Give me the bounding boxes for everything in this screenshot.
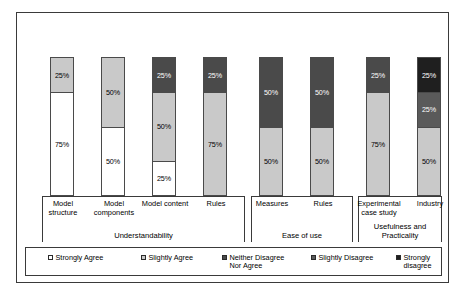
category-label: Rules	[293, 200, 353, 209]
stacked-bar: 50%50%	[310, 57, 334, 196]
legend-swatch-icon	[222, 255, 227, 260]
stacked-bar: 25%25%50%	[417, 57, 441, 196]
legend-label: Neither Disagree Nor Agree	[230, 254, 285, 271]
bar-segment: 25%	[153, 58, 175, 92]
bar-segment-label: 25%	[422, 72, 436, 79]
bar-segment: 50%	[260, 58, 282, 127]
stacked-bar: 25%50%25%	[152, 57, 176, 196]
category-label-line2: case study	[349, 209, 409, 218]
bar-segment: 50%	[260, 127, 282, 196]
bar-segment-label: 75%	[55, 141, 69, 148]
bar-segment-label: 25%	[157, 175, 171, 182]
bar-segment-label: 25%	[157, 72, 171, 79]
bar-segment: 50%	[102, 58, 124, 127]
legend-swatch-icon	[311, 255, 316, 260]
bar-segment: 50%	[311, 58, 333, 127]
legend-item[interactable]: Neither Disagree Nor Agree	[222, 254, 284, 271]
chart-frame: 25%75%50%50%25%50%25%25%75%50%50%50%50%2…	[16, 12, 449, 283]
bar-segment-label: 50%	[106, 158, 120, 165]
bar-segment: 25%	[204, 58, 226, 92]
bar-segment: 25%	[51, 58, 73, 92]
axis-group-3: Experimentalcase studyIndustryUsefulness…	[358, 196, 442, 242]
stacked-bar: 50%50%	[259, 57, 283, 196]
stacked-bar: 25%75%	[366, 57, 390, 196]
legend-label: Slightly Agree	[149, 254, 194, 262]
axis-group-label: Ease of use	[252, 231, 352, 240]
legend-swatch-icon	[48, 255, 53, 260]
bar-segment: 75%	[204, 92, 226, 195]
bar-segment-label: 50%	[422, 158, 436, 165]
legend-swatch-icon	[396, 255, 401, 260]
bar-segment-label: 25%	[422, 106, 436, 113]
stacked-bar: 25%75%	[203, 57, 227, 196]
plot-area: 25%75%50%50%25%50%25%25%75%50%50%50%50%2…	[25, 21, 442, 196]
bar-segment-label: 75%	[208, 141, 222, 148]
bar-segment: 50%	[153, 92, 175, 161]
bar-segment: 25%	[367, 58, 389, 92]
bar-segment-label: 50%	[264, 89, 278, 96]
legend-item[interactable]: Slightly Agree	[141, 254, 193, 262]
bar-segment: 50%	[418, 127, 440, 196]
legend-item[interactable]: Slightly Disagree	[311, 254, 373, 262]
bar-segment: 50%	[311, 127, 333, 196]
chart-legend: Strongly AgreeSlightly AgreeNeither Disa…	[25, 247, 442, 276]
stacked-bar: 50%50%	[101, 57, 125, 196]
bar-segment: 25%	[418, 92, 440, 126]
legend-label: Slightly Disagree	[319, 254, 374, 262]
category-label-line1: Rules	[186, 200, 246, 209]
bar-segment-label: 25%	[55, 72, 69, 79]
legend-swatch-icon	[141, 255, 146, 260]
stacked-bar: 25%75%	[50, 57, 74, 196]
category-label-line1: Rules	[293, 200, 353, 209]
bar-segment: 25%	[418, 58, 440, 92]
bar-segment-label: 25%	[208, 72, 222, 79]
legend-item[interactable]: Strongly disagree	[396, 254, 441, 271]
bar-segment: 25%	[153, 161, 175, 195]
category-label-line1: Industry	[400, 200, 460, 209]
bar-segment-label: 50%	[264, 158, 278, 165]
axis-group-label: Usefulness and Practicality	[359, 222, 441, 240]
bar-segment-label: 75%	[371, 141, 385, 148]
bar-segment-label: 50%	[315, 89, 329, 96]
category-axis-band: ModelstructureModelcomponentsModel conte…	[25, 196, 442, 242]
bar-segment: 75%	[51, 92, 73, 195]
axis-group-label: Understandability	[43, 231, 244, 240]
bar-segment: 75%	[367, 92, 389, 195]
bar-segment-label: 50%	[315, 158, 329, 165]
bar-segment-label: 25%	[371, 72, 385, 79]
category-label: Industry	[400, 200, 460, 209]
bar-segment-label: 50%	[106, 89, 120, 96]
bar-segment: 50%	[102, 127, 124, 196]
chart-figure: 25%75%50%50%25%50%25%25%75%50%50%50%50%2…	[0, 0, 465, 296]
legend-label: Strongly Agree	[56, 254, 104, 262]
axis-group-2: MeasuresRulesEase of use	[251, 196, 353, 242]
axis-group-1: ModelstructureModelcomponentsModel conte…	[42, 196, 245, 242]
bar-segment-label: 50%	[157, 123, 171, 130]
legend-item[interactable]: Strongly Agree	[48, 254, 103, 262]
category-label: Rules	[186, 200, 246, 209]
category-label-line2: components	[84, 209, 144, 218]
legend-label: Strongly disagree	[404, 254, 442, 271]
